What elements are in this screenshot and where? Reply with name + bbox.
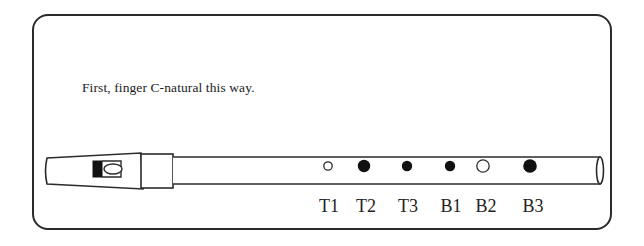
hole-b3-closed-icon	[523, 159, 537, 173]
hole-t2-closed-icon	[358, 160, 370, 172]
hole-label-b1: B1	[440, 196, 461, 217]
hole-label-t2: T2	[356, 196, 376, 217]
hole-label-b2: B2	[475, 196, 496, 217]
hole-label-t3: T3	[398, 196, 418, 217]
hole-t3-closed-icon	[402, 161, 412, 171]
tube-end	[597, 157, 604, 184]
hole-t1-open-icon	[324, 162, 332, 170]
windway-block-icon	[93, 161, 102, 177]
collar	[141, 154, 173, 188]
mouthpiece	[46, 153, 144, 189]
hole-b2-open-icon	[477, 160, 489, 172]
hole-label-t1: T1	[319, 196, 339, 217]
tube	[173, 157, 600, 184]
hole-b1-closed-icon	[445, 161, 455, 171]
hole-label-b3: B3	[522, 196, 543, 217]
